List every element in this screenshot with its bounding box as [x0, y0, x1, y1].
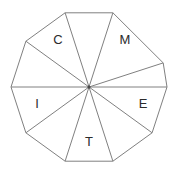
- decagon-figure: CMETI: [0, 0, 178, 172]
- sector-label-m: M: [120, 32, 131, 47]
- sector-label-t: T: [85, 134, 93, 149]
- sector-label-i: I: [35, 96, 39, 111]
- sector-label-c: C: [53, 32, 62, 47]
- decagon-diagram: CMETI: [0, 0, 178, 172]
- sector-label-e: E: [139, 96, 148, 111]
- center-point: [87, 85, 90, 88]
